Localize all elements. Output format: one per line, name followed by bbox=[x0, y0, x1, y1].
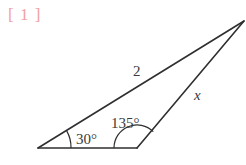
side-label-long-upper: 2 bbox=[133, 63, 141, 79]
triangle-side-right bbox=[137, 21, 244, 148]
figure-page: [ 1 ] 30° 135° 2 x bbox=[0, 0, 246, 165]
angle-label-bottom-right: 135° bbox=[111, 115, 140, 131]
triangle-side-long-upper bbox=[38, 21, 244, 148]
angle-arc-left bbox=[67, 131, 71, 148]
angle-label-left: 30° bbox=[76, 131, 97, 147]
side-label-right: x bbox=[193, 87, 201, 103]
triangle-figure: 30° 135° 2 x bbox=[0, 0, 246, 165]
